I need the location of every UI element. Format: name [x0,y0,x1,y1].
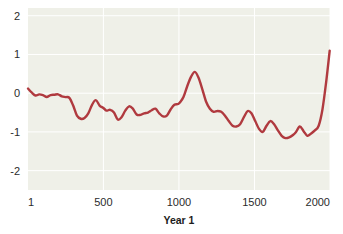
line-chart: 210-1-2 1500100015002000 Year 1 [0,0,343,234]
y-tick-label-2: 0 [14,87,20,99]
x-tick-label-0: 1 [28,196,34,208]
y-axis-tick-labels: 210-1-2 [10,10,20,177]
y-tick-label-3: -1 [10,126,20,138]
y-tick-label-1: 1 [14,48,20,60]
y-tick-label-0: 2 [14,10,20,22]
x-tick-label-3: 1500 [242,196,266,208]
x-tick-label-1: 500 [94,196,112,208]
y-tick-label-4: -2 [10,165,20,177]
chart-container: 210-1-2 1500100015002000 Year 1 [0,0,343,234]
x-axis-tick-labels: 1500100015002000 [28,196,330,208]
x-tick-label-2: 1000 [167,196,191,208]
x-axis-title: Year 1 [164,214,195,226]
x-tick-label-4: 2000 [306,196,330,208]
